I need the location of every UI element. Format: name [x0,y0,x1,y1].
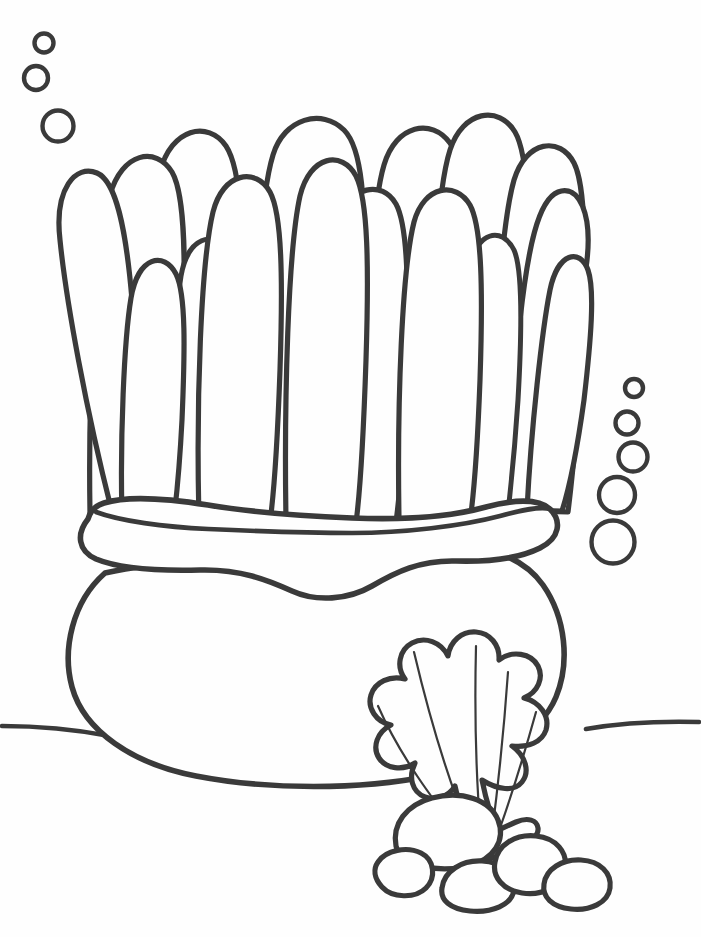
tentacle-3 [121,260,184,517]
tentacle-8 [286,160,368,523]
anemone-tentacles [59,115,592,523]
coloring-page-canvas [0,0,701,937]
tentacle-11 [399,190,482,521]
tentacle-6 [198,177,281,522]
line-art-illustration [0,0,701,937]
pebble-2 [375,850,433,896]
pebble-5 [544,860,610,909]
